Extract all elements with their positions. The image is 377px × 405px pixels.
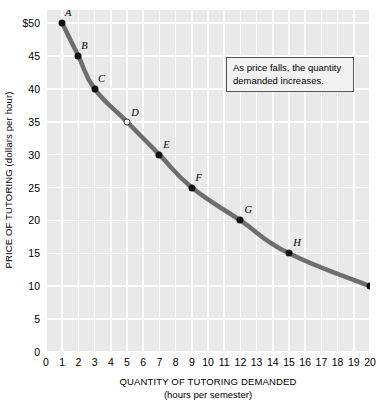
annotation-line-2: demanded increases. — [233, 75, 347, 88]
x-axis-tick-label: 4 — [108, 356, 114, 368]
y-axis-tick-label: 35 — [0, 117, 44, 127]
data-point-marker-e — [156, 151, 163, 158]
data-point-label-g: G — [245, 204, 253, 215]
y-axis-tick-label: 10 — [0, 281, 44, 291]
x-axis-tick-label: 1 — [59, 356, 65, 368]
demand-curve-figure: PRICE OF TUTORING (dollars per hour) 051… — [0, 0, 377, 405]
x-axis-tick-label: 6 — [140, 356, 146, 368]
x-axis-tick-labels: 01234567891011121314151617181920 — [0, 356, 377, 370]
demand-callout-annotation: As price falls, the quantity demanded in… — [226, 57, 354, 92]
x-axis-tick-label: 7 — [156, 356, 162, 368]
x-axis-tick-label: 17 — [316, 356, 328, 368]
plot-area: ABCDEFGHI As price falls, the quantity d… — [46, 10, 370, 352]
y-axis-tick-label: 20 — [0, 215, 44, 225]
data-point-marker-b — [75, 53, 82, 60]
data-point-marker-g — [237, 217, 244, 224]
data-point-marker-d — [124, 118, 131, 125]
data-point-label-h: H — [293, 237, 301, 248]
x-axis-subtitle: (hours per semester) — [46, 389, 370, 401]
x-axis-tick-label: 15 — [283, 356, 295, 368]
x-axis-tick-label: 10 — [202, 356, 214, 368]
x-axis-tick-label: 11 — [219, 356, 230, 368]
x-axis-tick-label: 20 — [364, 356, 376, 368]
annotation-line-1: As price falls, the quantity — [233, 62, 347, 75]
x-axis-tick-label: 19 — [348, 356, 360, 368]
x-axis-tick-label: 8 — [173, 356, 179, 368]
x-axis-tick-label: 18 — [332, 356, 344, 368]
data-point-marker-c — [91, 85, 98, 92]
y-axis-tick-label: 45 — [0, 51, 44, 61]
y-axis-tick-label: 30 — [0, 150, 44, 160]
data-point-marker-i — [367, 283, 371, 290]
data-point-label-c: C — [98, 72, 105, 83]
x-axis-tick-label: 9 — [189, 356, 195, 368]
data-point-label-a: A — [65, 10, 71, 18]
data-point-label-d: D — [131, 106, 139, 117]
x-axis-tick-label: 2 — [75, 356, 81, 368]
x-axis-tick-label: 13 — [251, 356, 263, 368]
y-axis-tick-label: 40 — [0, 84, 44, 94]
data-point-label-f: F — [196, 171, 202, 182]
x-axis-tick-label: 3 — [92, 356, 98, 368]
x-axis-tick-label: 12 — [235, 356, 247, 368]
data-point-marker-h — [286, 250, 293, 257]
data-point-label-e: E — [163, 138, 169, 149]
x-axis-tick-label: 5 — [124, 356, 130, 368]
y-axis-tick-labels: 051015202530354045$50 — [0, 0, 44, 405]
y-axis-tick-label: 15 — [0, 248, 44, 258]
data-point-marker-f — [188, 184, 195, 191]
data-point-label-b: B — [81, 40, 87, 51]
y-axis-tick-label: $50 — [0, 18, 44, 28]
y-axis-tick-label: 25 — [0, 183, 44, 193]
y-axis-tick-label: 5 — [0, 314, 44, 324]
data-point-marker-a — [59, 20, 66, 27]
x-axis-tick-label: 16 — [299, 356, 311, 368]
x-axis-tick-label: 14 — [267, 356, 279, 368]
x-axis-title: QUANTITY OF TUTORING DEMANDED — [46, 376, 370, 388]
x-axis-tick-label: 0 — [43, 356, 49, 368]
